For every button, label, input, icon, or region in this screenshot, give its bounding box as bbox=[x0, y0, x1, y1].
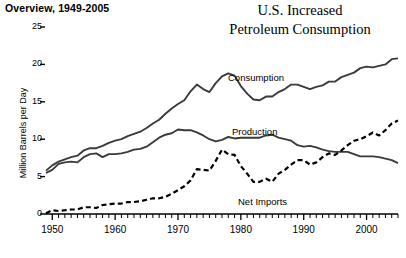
series-label-production: Production bbox=[232, 126, 277, 137]
chart-title-line-2: Petroleum Consumption bbox=[202, 20, 398, 39]
series-label-consumption: Consumption bbox=[228, 72, 284, 83]
x-axis-tick-label: 1970 bbox=[167, 224, 189, 235]
series-line-net-imports bbox=[46, 121, 398, 214]
series-label-net-imports: Net Imports bbox=[238, 196, 287, 207]
x-axis-tick-label: 1980 bbox=[230, 224, 252, 235]
y-axis-tick-label: 15 bbox=[32, 96, 42, 106]
series-line-consumption bbox=[46, 58, 398, 170]
overview-heading: Overview, 1949-2005 bbox=[5, 2, 109, 14]
y-axis-tick-label: 0 bbox=[37, 208, 42, 218]
y-axis-tick-label: 25 bbox=[32, 21, 42, 31]
y-axis-title: Million Barrels per Day bbox=[18, 58, 28, 208]
y-axis-tick-label: 20 bbox=[32, 58, 42, 68]
chart-title-line-1: U.S. Increased bbox=[202, 1, 398, 20]
series-lines bbox=[46, 58, 398, 213]
x-axis-tick-label: 1990 bbox=[293, 224, 315, 235]
y-axis-tick-label: 5 bbox=[37, 171, 42, 181]
axis-group bbox=[40, 27, 398, 220]
x-axis-tick-label: 1950 bbox=[41, 224, 63, 235]
x-axis-tick-label: 2000 bbox=[355, 224, 377, 235]
chart-figure: Overview, 1949-2005 U.S. Increased Petro… bbox=[0, 0, 406, 258]
chart-title: U.S. Increased Petroleum Consumption bbox=[202, 1, 398, 39]
y-axis-tick-label: 10 bbox=[32, 133, 42, 143]
x-axis-tick-label: 1960 bbox=[104, 224, 126, 235]
